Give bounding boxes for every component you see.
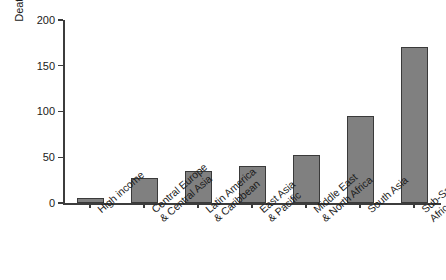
x-axis-label-6-line-2: Africa xyxy=(427,215,435,224)
x-axis-label-3-line-2: & Pacific xyxy=(265,215,273,224)
x-axis-label-2: Latin America& Caribbean xyxy=(203,206,219,224)
y-tick-150: 150 xyxy=(58,65,63,66)
x-axis-label-4-line-1: Middle East xyxy=(311,206,319,215)
x-axis-label-0: High income xyxy=(95,206,103,215)
y-tick-label-150: 150 xyxy=(37,60,55,72)
x-axis-label-5: South Asia xyxy=(365,206,373,215)
x-axis-label-1-line-1: Central Europe xyxy=(149,206,157,215)
x-axis-label-1-line-2: & Central Asia xyxy=(157,215,165,224)
y-axis-title-line-1: Deaths Before the 5th Birthday xyxy=(13,0,27,22)
x-axis-label-4: Middle East& North Africa xyxy=(311,206,327,224)
y-tick-label-200: 200 xyxy=(37,14,55,26)
x-axis-label-1: Central Europe& Central Asia xyxy=(149,206,165,224)
x-axis-label-0-line-1: High income xyxy=(95,206,103,215)
x-axis-label-2-line-2: & Caribbean xyxy=(211,215,219,224)
y-tick-100: 100 xyxy=(58,111,63,112)
bar-chart: Deaths Before the 5th Birthday (per 1000… xyxy=(0,0,446,280)
x-axis-label-6-line-1: Sub-Saharan xyxy=(419,206,427,215)
y-tick-label-100: 100 xyxy=(37,105,55,117)
y-tick-0: 0 xyxy=(58,202,63,203)
y-tick-label-0: 0 xyxy=(49,197,55,209)
x-axis-label-4-line-2: & North Africa xyxy=(319,215,327,224)
y-axis-line xyxy=(63,20,65,203)
x-axis-label-5-line-1: South Asia xyxy=(365,206,373,215)
x-axis-label-group: High incomeCentral Europe& Central AsiaL… xyxy=(63,206,441,280)
x-axis-label-3: East Asia& Pacific xyxy=(257,206,273,224)
y-tick-50: 50 xyxy=(58,157,63,158)
x-axis-label-6: Sub-SaharanAfrica xyxy=(419,206,435,224)
x-axis-label-3-line-1: East Asia xyxy=(257,206,265,215)
y-tick-label-50: 50 xyxy=(43,151,55,163)
x-axis-label-2-line-1: Latin America xyxy=(203,206,211,215)
y-tick-200: 200 xyxy=(58,19,63,20)
